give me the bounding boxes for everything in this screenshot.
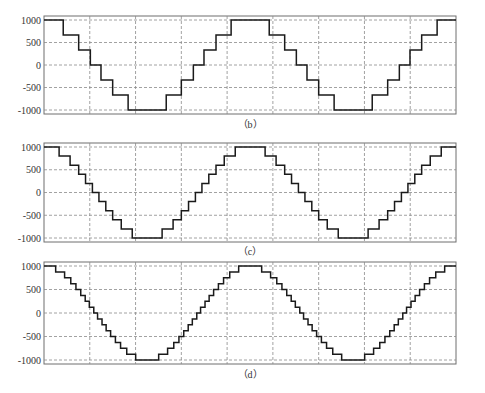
y-tick-label: -500: [23, 82, 41, 93]
y-tick-label: 500: [26, 164, 41, 175]
figure: 10005000-500-1000（b）10005000-500-1000（c）…: [0, 0, 485, 393]
panel-caption: （d）: [238, 369, 263, 380]
y-tick-label: -1000: [18, 355, 41, 366]
chart-panel-b: 10005000-500-1000（b）: [18, 15, 456, 131]
y-tick-label: 0: [36, 60, 41, 71]
y-tick-label: 0: [36, 187, 41, 198]
panel-caption: （b）: [238, 119, 263, 130]
y-tick-label: 0: [36, 308, 41, 319]
chart-panel-d: 10005000-500-1000（d）: [18, 261, 456, 381]
y-tick-label: -500: [23, 210, 41, 221]
y-tick-label: 1000: [21, 142, 41, 153]
y-tick-label: -1000: [18, 105, 41, 116]
chart-panel-c: 10005000-500-1000（c）: [18, 142, 456, 258]
y-tick-label: -500: [23, 331, 41, 342]
y-tick-label: 1000: [21, 261, 41, 272]
y-tick-label: 500: [26, 284, 41, 295]
panel-caption: （c）: [238, 246, 262, 257]
y-tick-label: 1000: [21, 15, 41, 26]
y-tick-label: 500: [26, 37, 41, 48]
y-tick-label: -1000: [18, 233, 41, 244]
